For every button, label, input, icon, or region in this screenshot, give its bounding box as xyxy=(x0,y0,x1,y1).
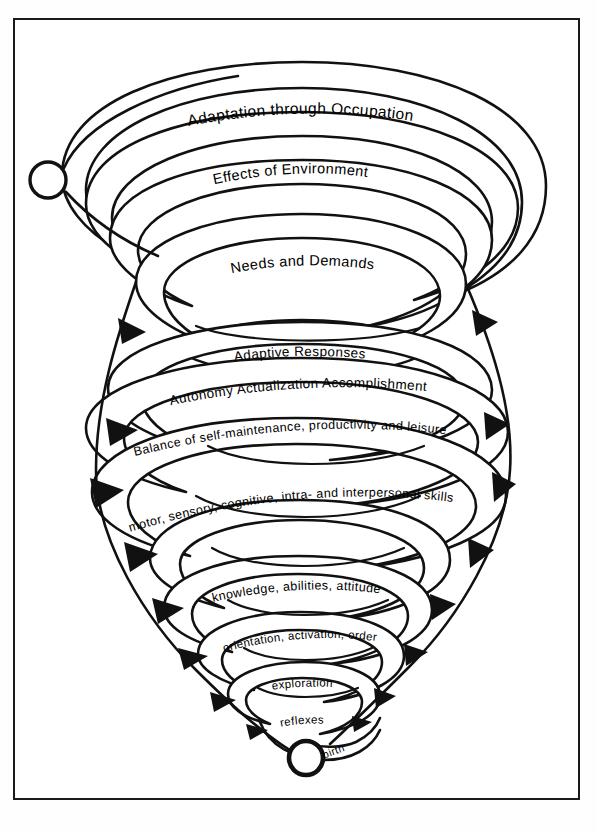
band-label-needs-and-demands: Needs and Demands xyxy=(229,252,375,276)
band-label-reflexes: reflexes xyxy=(279,714,324,729)
band-label-exploration: exploration xyxy=(271,677,333,692)
figure-root: Adaptation through Occupation Effects of… xyxy=(0,0,597,832)
spiral-start-circle xyxy=(30,162,66,198)
spiral-end-circle xyxy=(289,741,323,775)
spiral-diagram: Adaptation through Occupation Effects of… xyxy=(0,0,597,832)
band-label-knowledge-abilities-attitude: knowledge, abilities, attitude xyxy=(211,578,382,605)
